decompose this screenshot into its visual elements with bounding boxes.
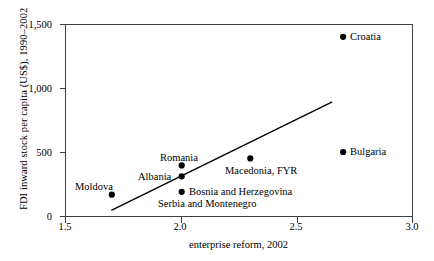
data-point-bosnia-serbia[interactable] [179, 189, 185, 195]
y-axis-ticks [60, 25, 66, 217]
point-label-romania: Romania [160, 152, 198, 163]
data-point-macedonia[interactable] [247, 155, 253, 161]
data-point-croatia[interactable] [340, 34, 346, 40]
x-axis-ticks [66, 217, 413, 223]
scatter-plot-figure: FDI inward stock per capita (US$), 1990–… [0, 0, 434, 261]
data-point-moldova[interactable] [109, 192, 115, 198]
data-point-bulgaria[interactable] [340, 149, 346, 155]
point-label-macedonia: Macedonia, FYR [225, 165, 297, 176]
point-label-bulgaria: Bulgaria [350, 146, 386, 157]
point-label-croatia: Croatia [350, 31, 381, 42]
point-label-albania: Albania [138, 171, 171, 182]
data-point-romania[interactable] [179, 162, 185, 168]
point-label-moldova: Moldova [75, 181, 113, 192]
data-point-albania[interactable] [179, 173, 185, 179]
point-label-serbia: Serbia and Montenegro [158, 198, 257, 209]
point-label-bosnia: Bosnia and Herzegovina [189, 186, 292, 197]
